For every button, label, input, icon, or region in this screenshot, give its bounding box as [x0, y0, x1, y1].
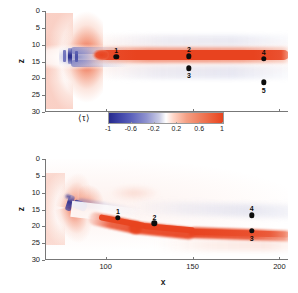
marker-top-4 [261, 56, 266, 61]
top-ylabel-10: 10 [32, 41, 40, 49]
top-panel-plot-area: 1 2 3 4 5 [45, 11, 288, 112]
bottom-panel-bottom-spine [45, 259, 288, 260]
marker-bottom-4 [249, 212, 254, 217]
top-ylabel-30: 30 [32, 108, 40, 116]
colorbar-ticklabel--0.2: -0.2 [148, 125, 160, 132]
colorbar-label: ⟨τ⟩ [78, 114, 90, 123]
top-ytick-30 [42, 112, 45, 113]
bottom-ylabel-15: 15 [32, 206, 40, 214]
marker-label-top-2: 2 [187, 46, 191, 53]
bottom-ytick-30 [42, 260, 45, 261]
marker-label-top-3: 3 [187, 72, 191, 79]
bottom-ytick-0 [42, 159, 45, 160]
colorbar-ticklabel--0.6: -0.6 [125, 125, 137, 132]
top-ylabel-0: 0 [36, 7, 40, 15]
marker-top-5 [261, 80, 266, 85]
top-ytick-10 [42, 45, 45, 46]
colorbar-ticklabel-0.2: 0.2 [172, 125, 182, 132]
top-panel: 1 2 3 4 5 0 5 10 15 20 25 30 [45, 11, 288, 112]
marker-bottom-1 [115, 215, 120, 220]
bottom-xlabel-100: 100 [99, 263, 112, 271]
marker-bottom-3 [249, 228, 254, 233]
colorbar-tick-1 [222, 122, 223, 124]
bottom-xlabel-200: 200 [273, 263, 286, 271]
colorbar-ticklabel-1: 1 [220, 125, 224, 132]
figure-container: z [0, 0, 298, 293]
bottom-panel-plot-area: 1 2 3 4 [45, 159, 288, 260]
colorbar-tick--1 [108, 122, 109, 124]
marker-label-top-5: 5 [262, 87, 266, 94]
colorbar-ticklabel-0.6: 0.6 [194, 125, 204, 132]
top-xtick-200 [279, 109, 280, 112]
bottom-ylabel-0: 0 [36, 155, 40, 163]
bottom-ytick-25 [42, 243, 45, 244]
marker-label-bottom-2: 2 [152, 214, 156, 221]
colorbar-tick-0.2 [176, 122, 177, 124]
top-ytick-20 [42, 78, 45, 79]
top-ylabel-20: 20 [32, 75, 40, 83]
colorbar-tick--0.6 [131, 122, 132, 124]
top-ytick-15 [42, 62, 45, 63]
colorbar-tick--0.2 [154, 122, 155, 124]
marker-label-bottom-1: 1 [116, 208, 120, 215]
bottom-ylabel-30: 30 [32, 256, 40, 264]
colorbar-tick-0.6 [199, 122, 200, 124]
marker-label-bottom-3: 3 [250, 235, 254, 242]
colorbar-ticklabel--1: -1 [105, 125, 111, 132]
bottom-xtick-200 [279, 257, 280, 260]
marker-top-3 [186, 66, 191, 71]
x-axis-title: x [161, 277, 166, 287]
top-ytick-0 [42, 11, 45, 12]
z-axis-title-bottom: z [16, 207, 26, 211]
top-ylabel-5: 5 [36, 24, 40, 32]
marker-label-top-1: 1 [114, 47, 118, 54]
marker-top-2 [186, 53, 191, 58]
bottom-ytick-10 [42, 193, 45, 194]
bottom-ylabel-5: 5 [36, 172, 40, 180]
bottom-ytick-5 [42, 176, 45, 177]
bottom-ytick-15 [42, 210, 45, 211]
colorbar: ⟨τ⟩ -1 -0.6 -0.2 0.2 0.6 1 [78, 112, 228, 136]
bottom-panel: 1 2 3 4 0 5 10 15 20 25 30 100 150 2 [45, 159, 288, 260]
top-ytick-25 [42, 95, 45, 96]
top-panel-left-spine [45, 11, 46, 112]
bottom-ylabel-10: 10 [32, 189, 40, 197]
marker-top-1 [113, 54, 118, 59]
bottom-ylabel-20: 20 [32, 223, 40, 231]
bottom-xtick-150 [193, 257, 194, 260]
top-ylabel-15: 15 [32, 58, 40, 66]
marker-label-bottom-4: 4 [250, 205, 254, 212]
bottom-xtick-100 [106, 257, 107, 260]
marker-bottom-2 [152, 221, 157, 226]
bottom-ytick-20 [42, 226, 45, 227]
marker-label-top-4: 4 [262, 49, 266, 56]
bottom-ylabel-25: 25 [32, 239, 40, 247]
colorbar-gradient [108, 112, 224, 124]
top-ylabel-25: 25 [32, 91, 40, 99]
top-ytick-5 [42, 28, 45, 29]
bottom-panel-left-spine [45, 159, 46, 260]
z-axis-title-top: z [16, 59, 26, 63]
bottom-xlabel-150: 150 [186, 263, 199, 271]
